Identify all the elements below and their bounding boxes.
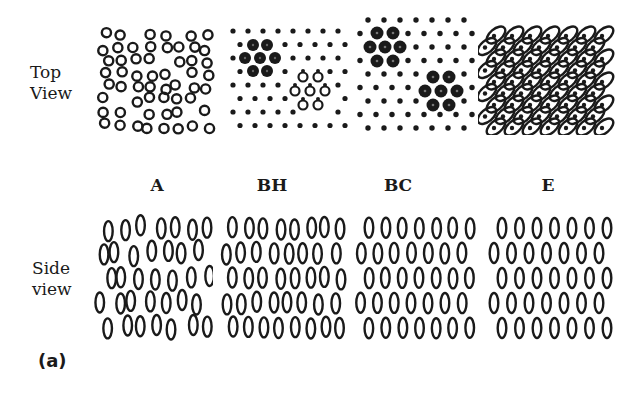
row-label-top-line1: Top bbox=[30, 62, 72, 83]
top-view-bc-diagram bbox=[352, 15, 480, 135]
row-label-top-view: Top View bbox=[30, 62, 72, 104]
side-view-e-diagram bbox=[480, 212, 615, 342]
row-label-side-line1: Side bbox=[32, 258, 72, 279]
top-view-bh-diagram bbox=[225, 25, 350, 135]
side-view-bc-diagram bbox=[352, 212, 477, 342]
side-view-bh-diagram bbox=[218, 212, 353, 342]
top-view-e-diagram bbox=[478, 25, 618, 135]
top-view-a-diagram bbox=[96, 25, 221, 135]
row-label-side-view: Side view bbox=[32, 258, 72, 300]
column-label-a: A bbox=[150, 175, 163, 195]
side-view-a-diagram bbox=[88, 212, 213, 342]
row-label-side-line2: view bbox=[32, 279, 72, 300]
row-label-top-line2: View bbox=[30, 83, 72, 104]
column-label-bh: BH bbox=[257, 175, 287, 195]
column-label-e: E bbox=[542, 175, 555, 195]
column-label-bc: BC bbox=[384, 175, 412, 195]
figure-caption: (a) bbox=[38, 350, 67, 371]
